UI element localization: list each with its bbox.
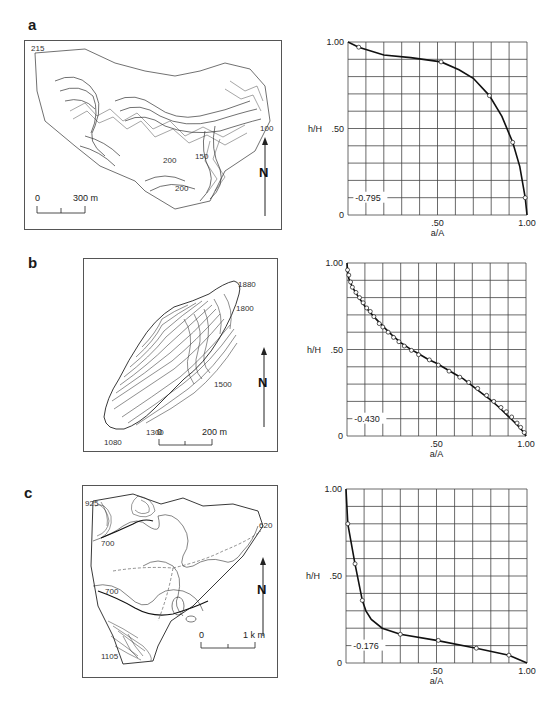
contour-map-b: 1880 1800 1500 1300 1080 N 0 200 m [83,258,278,452]
hypsometric-chart-c: 1.00.500h/H.501.00a/A-0.176 [300,478,547,702]
data-point [377,322,381,326]
y-tick-label: 1.00 [324,484,342,494]
scale-bar: 0 1 k m [199,630,265,648]
y-axis-label: h/H [307,345,321,355]
svg-text:0: 0 [35,193,40,203]
x-tick-label: 1.00 [518,218,536,228]
y-tick-label: 0 [339,210,344,220]
x-tick-label: 1.00 [517,439,535,449]
contour-label: 700 [105,587,119,596]
panel-label-a: a [28,17,36,32]
data-point [510,415,514,419]
svg-text:200 m: 200 m [202,427,227,437]
y-tick-label: .50 [329,571,342,581]
data-point [402,344,406,348]
data-point [515,421,519,425]
data-point [436,638,440,642]
contour-label: 150 [195,152,209,161]
grid [347,263,526,436]
contour-label: 925 [85,499,99,508]
data-point [492,399,496,403]
data-point [507,653,511,657]
scale-bar: 0 200 m [157,427,227,445]
y-tick-label: 1.00 [325,258,343,268]
x-tick-label: .50 [431,218,444,228]
y-tick-label: 0 [337,658,342,668]
north-arrow-icon: N [258,347,267,427]
data-point [346,268,350,272]
data-point [361,301,365,305]
data-point [474,646,478,650]
data-point [436,363,440,367]
data-point [350,285,354,289]
grid [346,489,527,663]
contour-label: 215 [31,44,45,53]
y-tick-label: .50 [331,124,344,134]
contour-label: 1880 [238,280,256,289]
y-axis-label: h/H [308,124,322,134]
data-point [476,386,480,390]
y-axis-label: h/H [306,571,320,581]
hypsometric-integral-label: -0.430 [354,414,380,424]
x-tick-label: .50 [430,439,443,449]
svg-text:0: 0 [199,630,204,640]
svg-text:N: N [259,165,268,180]
y-tick-label: 0 [338,431,343,441]
contour-map-a: 215 200 150 100 200 N 0 300 m [24,40,282,230]
data-point [447,369,451,373]
data-point [353,562,357,566]
hypsometric-chart-a: 1.00.500h/H.501.00a/A-0.795 [300,30,547,240]
hypsometric-integral-label: -0.176 [353,641,379,651]
x-axis-label: a/A [431,228,445,238]
data-point [392,335,396,339]
contour-label: 1105 [101,652,119,661]
svg-text:0: 0 [157,427,162,437]
north-arrow-icon: N [259,137,268,216]
contour-label: 620 [259,521,273,530]
x-tick-label: .50 [430,666,443,676]
data-point [346,522,350,526]
data-point [522,431,526,435]
data-point [349,280,353,284]
data-point [365,306,369,310]
contour-label: 200 [163,156,177,165]
data-point [386,330,390,334]
svg-text:N: N [258,375,267,390]
x-axis-label: a/A [430,449,444,459]
contour-label: 700 [101,539,115,548]
data-point [360,598,364,602]
north-arrow-icon: N [257,557,266,636]
data-point [397,340,401,344]
hypsometric-chart-b: 1.00.500h/H.501.00a/A-0.430 [300,251,547,461]
contour-label: 1080 [104,438,122,447]
data-point [467,380,471,384]
data-point [409,348,413,352]
y-tick-label: .50 [330,345,343,355]
data-point [427,358,431,362]
x-axis-label: a/A [430,676,444,686]
data-point [499,405,503,409]
panel-label-c: c [24,485,32,500]
data-point [504,410,508,414]
data-point [368,309,372,313]
data-point [439,60,443,64]
svg-text:1 k m: 1 k m [243,630,265,640]
data-point [511,140,515,144]
data-point [354,290,358,294]
y-tick-label: 1.00 [326,37,344,47]
data-point [487,94,491,98]
svg-text:300 m: 300 m [73,193,98,203]
data-point [458,375,462,379]
data-point [381,325,385,329]
contour-label: 1500 [214,380,232,389]
contour-label: 1800 [236,304,254,313]
hypsometric-integral-label: -0.795 [355,193,381,203]
contour-label: 100 [260,124,274,133]
data-point [372,315,376,319]
data-point [398,632,402,636]
contour-map-c: 925 700 700 620 1105 N 0 1 k m [82,485,278,678]
x-tick-label: 1.00 [518,666,536,676]
data-point [485,393,489,397]
panel-label-b: b [28,255,37,270]
grid [348,42,527,215]
